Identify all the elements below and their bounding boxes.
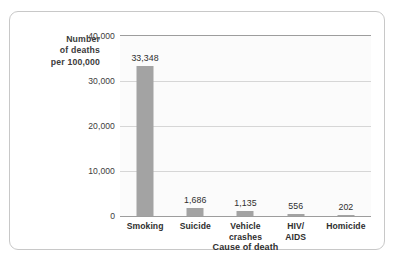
bar[interactable] <box>187 208 204 216</box>
bar-value-label: 33,348 <box>131 53 158 63</box>
bar-group: 202Homicide <box>321 36 371 216</box>
x-axis-title: Cause of death <box>120 242 371 252</box>
bar-group: 1,686Suicide <box>170 36 220 216</box>
y-tick-label: 10,000 <box>88 166 115 176</box>
plot-inner: 010,00020,00030,00040,00033,348Smoking1,… <box>120 36 371 216</box>
bar-value-label: 1,135 <box>234 198 256 208</box>
bar-value-label: 1,686 <box>184 195 206 205</box>
x-tick-label: Smoking <box>127 221 164 232</box>
x-tick-label-line: HIV/ <box>285 221 306 232</box>
bar-group: 1,135Vehiclecrashes <box>220 36 270 216</box>
y-axis-title-line-2: of deaths <box>16 45 100 56</box>
x-tick-label: Suicide <box>180 221 211 232</box>
x-tick-label-line: Homicide <box>326 221 365 232</box>
y-tick-label: 30,000 <box>88 76 115 86</box>
bar-group: 556HIV/AIDS <box>271 36 321 216</box>
chart-card: Number of deaths per 100,000 010,00020,0… <box>9 11 385 250</box>
x-tick-label-line: crashes <box>229 232 262 243</box>
bar[interactable] <box>137 66 154 216</box>
x-tick-label: Vehiclecrashes <box>229 221 262 242</box>
plot-area: 010,00020,00030,00040,00033,348Smoking1,… <box>120 35 371 217</box>
bar-value-label: 202 <box>338 202 353 212</box>
y-tick-label: 0 <box>110 211 115 221</box>
x-tick-label-line: AIDS <box>285 232 306 243</box>
x-tick-label-line: Suicide <box>180 221 211 232</box>
x-tick-label: Homicide <box>326 221 365 232</box>
y-axis-title-line-3: per 100,000 <box>16 57 100 68</box>
y-tick-label: 20,000 <box>88 121 115 131</box>
bar-group: 33,348Smoking <box>120 36 170 216</box>
bar[interactable] <box>287 214 304 217</box>
y-tick-label: 40,000 <box>88 31 115 41</box>
bar[interactable] <box>337 215 354 217</box>
bar[interactable] <box>237 211 254 216</box>
x-tick-label-line: Smoking <box>127 221 164 232</box>
x-tick-label: HIV/AIDS <box>285 221 306 242</box>
bar-value-label: 556 <box>288 201 303 211</box>
x-tick-label-line: Vehicle <box>229 221 262 232</box>
